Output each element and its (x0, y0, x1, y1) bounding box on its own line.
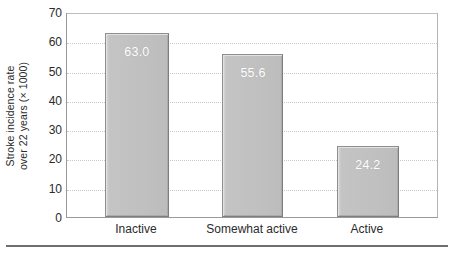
x-axis-tick-labels: InactiveSomewhat activeActive (66, 222, 438, 240)
y-tick-label: 30 (36, 124, 62, 136)
y-axis-title-text: Stroke incidence rate over 22 years (× 1… (4, 61, 30, 169)
y-tick-label: 70 (36, 7, 62, 19)
y-tick-label: 60 (36, 36, 62, 48)
bar-value-label: 24.2 (338, 159, 399, 172)
x-tick-label: Active (287, 222, 447, 236)
y-axis-title-line2: over 22 years (× 1000) (17, 61, 30, 169)
bar: 24.2 (337, 146, 400, 217)
bar-value-label: 55.6 (223, 67, 282, 80)
y-axis-tick-labels: 706050403020100 (36, 0, 62, 253)
plot-area: 63.055.624.2 (66, 13, 438, 218)
y-tick-label: 40 (36, 95, 62, 107)
chart-screenshot: Stroke incidence rate over 22 years (× 1… (0, 0, 452, 253)
y-axis-title-line1: Stroke incidence rate (4, 61, 17, 169)
bar: 63.0 (105, 33, 169, 218)
y-tick-label: 10 (36, 183, 62, 195)
y-axis-title: Stroke incidence rate over 22 years (× 1… (0, 13, 34, 218)
bar: 55.6 (222, 54, 283, 217)
bar-value-label: 63.0 (106, 46, 168, 59)
bottom-divider (6, 245, 448, 247)
y-tick-label: 50 (36, 66, 62, 78)
y-tick-label: 20 (36, 153, 62, 165)
